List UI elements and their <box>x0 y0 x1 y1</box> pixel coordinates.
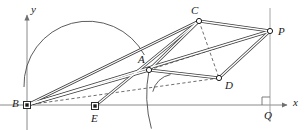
vertex-dot-E <box>93 104 96 107</box>
vertex-marker-A <box>146 67 151 72</box>
double-segments-group <box>27 21 270 106</box>
figure-canvas <box>0 0 307 130</box>
point-label-P: P <box>278 26 285 37</box>
vertex-marker-D <box>216 75 221 80</box>
point-label-x: x <box>293 97 298 108</box>
point-label-y: y <box>31 4 36 15</box>
vertex-marker-C <box>196 18 201 23</box>
arc-centered-B-through-A <box>147 70 152 129</box>
segment-AC-inner <box>149 21 199 70</box>
vertex-marker-P <box>267 28 272 33</box>
segment-CP-inner <box>199 21 270 31</box>
point-label-B: B <box>12 98 19 109</box>
point-label-C: C <box>191 5 198 16</box>
angle-arc-at-A <box>153 75 171 92</box>
point-label-Q: Q <box>264 110 272 121</box>
point-label-E: E <box>91 113 98 124</box>
point-label-D: D <box>225 80 233 91</box>
geometry-figure: y x B E A C D P Q <box>0 0 307 130</box>
right-angle-at-Q <box>262 97 270 105</box>
point-label-A: A <box>138 54 145 65</box>
vertex-dot-B <box>25 103 28 106</box>
segment-DA-inner <box>149 70 219 78</box>
